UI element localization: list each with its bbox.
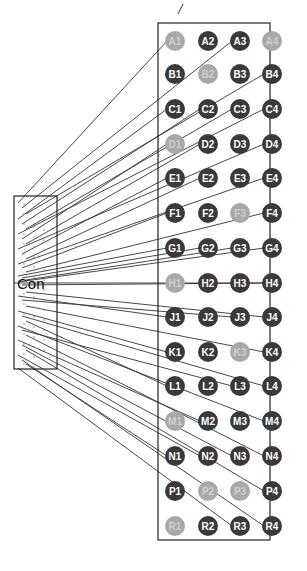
connector-dot bbox=[33, 346, 35, 348]
connector-dot bbox=[33, 266, 35, 268]
pin-n2: N2 bbox=[198, 446, 218, 466]
connector-dot bbox=[23, 323, 25, 325]
connector-dot bbox=[43, 219, 45, 221]
pin-label: E1 bbox=[169, 173, 182, 184]
pin-r4: R4 bbox=[262, 516, 282, 536]
pin-label: D4 bbox=[266, 139, 279, 150]
pin-label: D3 bbox=[234, 139, 247, 150]
pin-r1: R1 bbox=[165, 516, 185, 536]
connector-dot bbox=[33, 366, 35, 368]
pin-label: M2 bbox=[201, 416, 215, 427]
connector-label: Con bbox=[17, 275, 45, 292]
pin-label: H4 bbox=[266, 278, 279, 289]
pin-label: D2 bbox=[202, 139, 215, 150]
pin-r2: R2 bbox=[198, 516, 218, 536]
connector-dot bbox=[43, 359, 45, 361]
pin-b2: B2 bbox=[198, 64, 218, 84]
pin-label: E3 bbox=[234, 173, 247, 184]
connector-dot bbox=[23, 213, 25, 215]
pin-r3: R3 bbox=[230, 516, 250, 536]
connector-dot bbox=[43, 369, 45, 371]
pin-label: J1 bbox=[169, 312, 181, 323]
pin-g2: G2 bbox=[198, 238, 218, 258]
pin-k3: K3 bbox=[230, 342, 250, 362]
pin-l1: L1 bbox=[165, 376, 185, 396]
connector-dot bbox=[23, 253, 25, 255]
pin-p3: P3 bbox=[230, 481, 250, 501]
pin-label: A2 bbox=[202, 36, 215, 47]
pin-label: A3 bbox=[234, 36, 247, 47]
pin-label: P3 bbox=[234, 486, 247, 497]
pin-f1: F1 bbox=[165, 203, 185, 223]
connector-dot bbox=[33, 256, 35, 258]
wire-k1 bbox=[18, 311, 167, 352]
pin-label: G1 bbox=[168, 243, 182, 254]
pin-label: M1 bbox=[168, 416, 182, 427]
connector-dot bbox=[23, 233, 25, 235]
pin-label: P4 bbox=[266, 486, 279, 497]
connector-dot bbox=[23, 343, 25, 345]
pin-p1: P1 bbox=[165, 481, 185, 501]
connector-dot bbox=[33, 236, 35, 238]
pin-p2: P2 bbox=[198, 481, 218, 501]
connector-dot bbox=[43, 259, 45, 261]
pin-m1: M1 bbox=[165, 411, 185, 431]
wire-e4 bbox=[18, 178, 264, 264]
pin-g4: G4 bbox=[262, 238, 282, 258]
pin-label: L3 bbox=[234, 381, 246, 392]
connector-dot bbox=[33, 356, 35, 358]
connector-dot bbox=[43, 249, 45, 251]
pin-label: B2 bbox=[202, 69, 215, 80]
pin-label: N1 bbox=[169, 451, 182, 462]
pin-n4: N4 bbox=[262, 446, 282, 466]
connector-dot bbox=[43, 209, 45, 211]
pin-label: F4 bbox=[266, 208, 278, 219]
pin-h4: H4 bbox=[262, 273, 282, 293]
pin-label: L2 bbox=[202, 381, 214, 392]
pin-l4: L4 bbox=[262, 376, 282, 396]
pin-j3: J3 bbox=[230, 307, 250, 327]
pin-k4: K4 bbox=[262, 342, 282, 362]
pin-label: A4 bbox=[266, 36, 279, 47]
pin-g3: G3 bbox=[230, 238, 250, 258]
pin-c1: C1 bbox=[165, 99, 185, 119]
connector-dot bbox=[33, 226, 35, 228]
pin-label: H3 bbox=[234, 278, 247, 289]
pin-label: H1 bbox=[169, 278, 182, 289]
pin-d1: D1 bbox=[165, 134, 185, 154]
connector-dot bbox=[43, 319, 45, 321]
pin-label: F1 bbox=[169, 208, 181, 219]
connector-dot bbox=[33, 246, 35, 248]
pin-e3: E3 bbox=[230, 168, 250, 188]
pin-j1: J1 bbox=[165, 307, 185, 327]
pin-label: L1 bbox=[169, 381, 181, 392]
pin-label: B3 bbox=[234, 69, 247, 80]
connector-dot bbox=[43, 349, 45, 351]
connector-dot bbox=[43, 229, 45, 231]
pin-label: J4 bbox=[266, 312, 278, 323]
pin-e1: E1 bbox=[165, 168, 185, 188]
connector-dot bbox=[33, 316, 35, 318]
pin-k1: K1 bbox=[165, 342, 185, 362]
connector-dot bbox=[23, 223, 25, 225]
pin-label: J2 bbox=[202, 312, 214, 323]
pin-h3: H3 bbox=[230, 273, 250, 293]
connector-dot bbox=[33, 206, 35, 208]
wire-n4 bbox=[26, 335, 264, 456]
pin-label: E4 bbox=[266, 173, 279, 184]
wire-c1 bbox=[18, 109, 167, 219]
pin-label: C4 bbox=[266, 104, 279, 115]
pin-label: F2 bbox=[202, 208, 214, 219]
connector-dot bbox=[43, 339, 45, 341]
pin-label: H2 bbox=[202, 278, 215, 289]
pin-label: L4 bbox=[266, 381, 278, 392]
wire-m4 bbox=[18, 326, 264, 421]
pin-p4: P4 bbox=[262, 481, 282, 501]
pin-label: E2 bbox=[202, 173, 215, 184]
pin-label: N2 bbox=[202, 451, 215, 462]
connector-dot bbox=[43, 239, 45, 241]
pin-c3: C3 bbox=[230, 99, 250, 119]
pin-a3: A3 bbox=[230, 31, 250, 51]
pin-label: N4 bbox=[266, 451, 279, 462]
connector-dot bbox=[43, 329, 45, 331]
